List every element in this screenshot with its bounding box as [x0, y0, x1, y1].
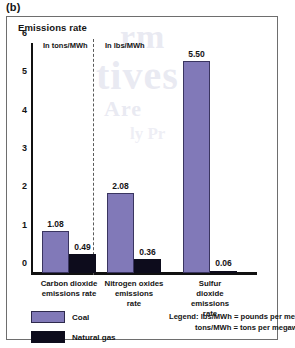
- bar-value-coal-carbon-dioxide: 1.08: [47, 219, 64, 229]
- bar-value-gas-sulfur-dioxide: 0.06: [215, 258, 232, 268]
- panel-divider: [93, 39, 94, 275]
- bar-coal-sulfur-dioxide: [183, 61, 210, 273]
- legend-swatch-coal-icon: [31, 311, 65, 323]
- y-tick-5: 5: [22, 66, 27, 76]
- legend-label-coal: Coal: [72, 313, 89, 322]
- chart-title: Emissions rate: [18, 22, 87, 33]
- plot-area: 0 1 2 3 4 5 6 In tons/MWh In lbs/MWh 1.0…: [31, 43, 257, 275]
- legend-swatch-natural-gas-icon: [31, 331, 65, 343]
- legend-item-coal: Coal: [31, 311, 89, 323]
- y-axis-line: [31, 43, 33, 275]
- category-label-carbon-dioxide: Carbon dioxide emissions rate: [41, 279, 98, 299]
- category-label-nitrogen-oxides: Nitrogen oxides emissions rate: [105, 279, 164, 309]
- figure-panel-label: (b): [6, 1, 21, 13]
- bar-value-coal-sulfur-dioxide: 5.50: [188, 49, 205, 59]
- legend-note-lead: Legend:: [169, 312, 199, 321]
- bar-value-coal-nitrogen-oxides: 2.08: [112, 181, 129, 191]
- unit-label-left: In tons/MWh: [43, 41, 88, 50]
- y-tick-2: 2: [22, 181, 27, 191]
- legend-note-line2: tons/MWh = tons per megawatt-hour: [169, 322, 295, 333]
- bar-coal-carbon-dioxide: [42, 231, 69, 273]
- legend-note: Legend: lbs/MWh = pounds per megawatt-ho…: [169, 311, 295, 333]
- bar-value-gas-nitrogen-oxides: 0.36: [139, 247, 156, 257]
- y-tick-3: 3: [22, 143, 27, 153]
- legend-label-natural-gas: Natural gas: [72, 333, 116, 342]
- y-tick-6: 6: [22, 28, 27, 38]
- y-tick-1: 1: [22, 220, 27, 230]
- bar-gas-nitrogen-oxides: [134, 259, 161, 273]
- legend-note-line1: lbs/MWh = pounds per megawatt-hour: [201, 312, 295, 321]
- bar-value-gas-carbon-dioxide: 0.49: [74, 242, 91, 252]
- chart-frame: Emissions rate 0 1 2 3 4 5 6 In tons/MWh…: [6, 16, 278, 340]
- y-tick-4: 4: [22, 105, 27, 115]
- bar-gas-carbon-dioxide: [69, 254, 96, 273]
- unit-label-right: In lbs/MWh: [105, 41, 145, 50]
- bar-coal-nitrogen-oxides: [107, 193, 134, 273]
- y-tick-0: 0: [22, 258, 27, 268]
- legend-item-natural-gas: Natural gas: [31, 331, 116, 343]
- bar-gas-sulfur-dioxide: [210, 271, 237, 273]
